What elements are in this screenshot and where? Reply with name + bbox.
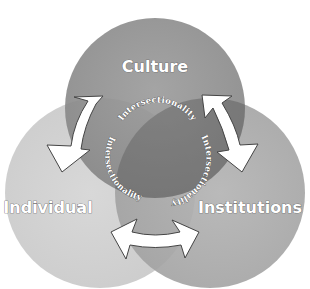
culture-label: Culture	[122, 57, 189, 76]
venn-diagram: Culture Individual Institutions Intersec…	[0, 0, 310, 289]
individual-label: Individual	[3, 198, 92, 217]
institutions-label: Institutions	[198, 198, 302, 217]
